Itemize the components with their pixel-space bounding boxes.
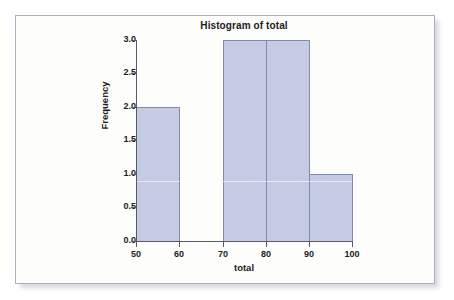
x-axis-line	[136, 241, 353, 242]
y-axis-line	[136, 40, 137, 242]
histogram-screenshot: Histogram of total Frequency total 0.0 0…	[0, 0, 454, 300]
x-tick-1: 60	[164, 249, 194, 259]
x-tick-5: 100	[337, 249, 367, 259]
x-axis-label: total	[136, 262, 352, 273]
y-axis-label: Frequency	[99, 66, 110, 146]
histogram-bar-80-90	[266, 40, 310, 242]
x-tick-mark-0	[136, 242, 137, 247]
x-tick-4: 90	[294, 249, 324, 259]
x-tick-mark-4	[309, 242, 310, 247]
histogram-plot: Histogram of total Frequency total 0.0 0…	[0, 0, 454, 300]
x-tick-mark-1	[179, 242, 180, 247]
x-tick-mark-2	[223, 242, 224, 247]
x-tick-0: 50	[121, 249, 151, 259]
histogram-bar-70-80	[223, 40, 267, 242]
x-tick-mark-3	[266, 242, 267, 247]
scan-streak	[137, 181, 352, 182]
chart-title: Histogram of total	[136, 20, 352, 31]
histogram-bar-90-100	[309, 174, 353, 242]
histogram-bar-50-60	[136, 107, 180, 242]
x-tick-mark-5	[352, 242, 353, 247]
x-tick-3: 80	[251, 249, 281, 259]
x-tick-2: 70	[208, 249, 238, 259]
